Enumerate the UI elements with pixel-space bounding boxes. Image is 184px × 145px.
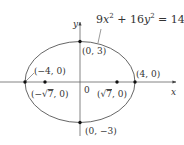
origin-label: 0: [84, 85, 90, 95]
equation-label: 9x2 + 16y2 = 144: [96, 12, 184, 26]
bottom-vertex-point: [78, 121, 81, 124]
left-vertex-point: [23, 80, 26, 83]
equation-leader-line: [98, 29, 101, 43]
right-focus-point: [115, 80, 118, 83]
right-vertex-point: [133, 80, 136, 83]
left-vertex-leader-line: [26, 73, 34, 81]
right-focus-label: (√7, 0): [97, 89, 127, 99]
right-vertex-label: (4, 0): [136, 69, 160, 79]
svg-text:(√7, 0): (√7, 0): [97, 89, 127, 99]
top-vertex-point: [78, 40, 81, 43]
left-focus-label: (−√7, 0): [31, 89, 69, 99]
top-vertex-label: (0, 3): [82, 46, 106, 56]
left-focus-point: [43, 80, 46, 83]
svg-text:(−√7, 0): (−√7, 0): [31, 89, 69, 99]
x-axis-label: x: [171, 87, 176, 97]
y-axis-label: y: [72, 19, 79, 29]
ellipse-diagram: 9x2 + 16y2 = 144 y x 0 (0, 3) (0, −3) (−…: [0, 0, 184, 145]
bottom-vertex-label: (0, −3): [85, 126, 117, 136]
left-vertex-label: (−4, 0): [34, 66, 66, 76]
